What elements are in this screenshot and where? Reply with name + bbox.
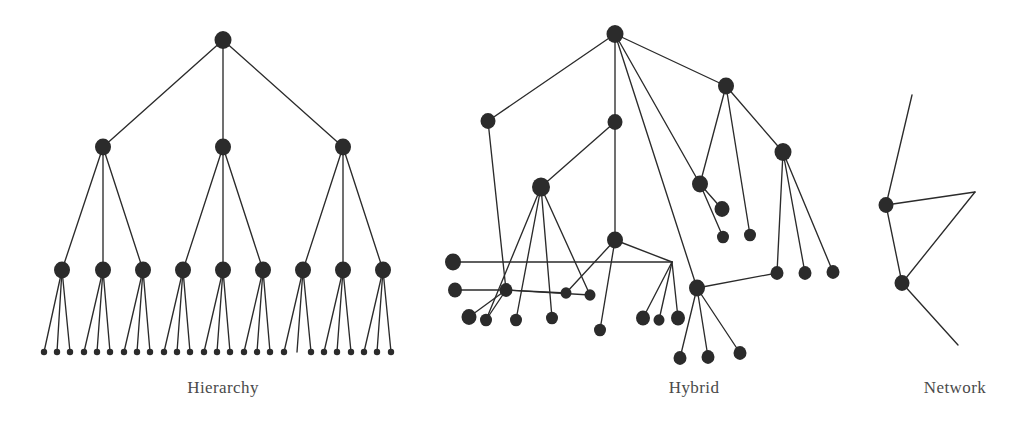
- caption-hybrid: Hybrid: [669, 378, 720, 398]
- graph-node: [608, 114, 623, 130]
- diagram-svg: [0, 0, 1031, 423]
- graph-edge: [672, 262, 678, 318]
- graph-node: [375, 262, 391, 279]
- graph-edge: [103, 147, 143, 270]
- graph-node: [161, 349, 167, 355]
- graph-edge: [343, 270, 351, 352]
- graph-node: [241, 349, 247, 355]
- graph-node: [94, 349, 100, 355]
- graph-node: [335, 262, 351, 279]
- graph-node: [308, 349, 314, 355]
- graph-node: [480, 314, 492, 327]
- graph-node: [174, 349, 180, 355]
- graph-node: [134, 349, 140, 355]
- graph-node: [718, 78, 734, 95]
- graph-edge: [697, 288, 740, 353]
- graph-edge: [343, 147, 383, 270]
- graph-node: [267, 349, 273, 355]
- graph-node: [734, 346, 747, 360]
- graph-edge: [223, 270, 230, 352]
- graph-edge: [615, 34, 700, 184]
- graph-node: [744, 229, 756, 242]
- graph-node: [54, 349, 60, 355]
- graph-edge: [183, 147, 223, 270]
- graph-node: [654, 314, 665, 326]
- graph-node: [255, 262, 271, 279]
- hybrid-graph: [445, 25, 840, 365]
- graph-edge: [488, 34, 615, 121]
- graph-edge: [486, 187, 541, 320]
- graph-edge: [383, 270, 391, 352]
- graph-edge: [886, 205, 902, 283]
- graph-node: [281, 349, 287, 355]
- graph-edge: [615, 34, 697, 288]
- graph-node: [827, 265, 840, 279]
- graph-node: [775, 143, 792, 161]
- edge-group: [453, 34, 833, 358]
- graph-node: [147, 349, 153, 355]
- graph-node: [321, 349, 327, 355]
- graph-edge: [700, 86, 726, 184]
- graph-edge: [223, 147, 263, 270]
- graph-node: [607, 25, 624, 43]
- graph-node: [175, 262, 191, 279]
- caption-hierarchy: Hierarchy: [187, 378, 259, 398]
- graph-node: [95, 262, 111, 279]
- graph-edge: [697, 288, 708, 357]
- graph-node: [692, 176, 708, 193]
- graph-node: [201, 349, 207, 355]
- graph-edge: [643, 262, 672, 318]
- graph-edge: [659, 262, 672, 320]
- graph-node: [481, 113, 496, 129]
- graph-node: [532, 177, 550, 196]
- graph-node: [67, 349, 73, 355]
- graph-node: [448, 283, 462, 298]
- graph-node: [334, 349, 340, 355]
- graph-node: [215, 262, 231, 279]
- graph-node: [594, 324, 606, 337]
- graph-edge: [183, 270, 190, 352]
- graph-node: [54, 262, 70, 279]
- graph-node: [107, 349, 113, 355]
- graph-edge: [615, 240, 672, 262]
- caption-network: Network: [924, 378, 986, 398]
- graph-node: [546, 312, 558, 325]
- graph-open-edge: [886, 95, 912, 205]
- graph-node: [361, 349, 367, 355]
- graph-node: [717, 231, 729, 244]
- graph-node: [374, 349, 380, 355]
- graph-node: [295, 262, 311, 279]
- graph-node: [95, 139, 111, 156]
- graph-edge: [516, 187, 541, 320]
- graph-node: [445, 254, 461, 271]
- graph-node: [510, 314, 522, 327]
- graph-edge: [143, 270, 150, 352]
- graph-node: [895, 275, 910, 291]
- graph-node: [214, 349, 220, 355]
- graph-node: [254, 349, 260, 355]
- graph-edge: [303, 270, 311, 352]
- graph-node: [771, 266, 784, 280]
- graph-open-edge: [886, 192, 975, 205]
- graph-edge: [541, 122, 615, 187]
- graph-edge: [615, 34, 726, 86]
- graph-edge: [103, 40, 223, 147]
- graph-node: [462, 309, 477, 325]
- graph-node: [671, 311, 685, 326]
- graph-edge: [726, 86, 750, 235]
- graph-node: [135, 262, 151, 279]
- graph-open-edge: [902, 192, 975, 283]
- graph-edge: [783, 152, 805, 273]
- graph-edge: [103, 270, 110, 352]
- graph-node: [607, 232, 623, 249]
- graph-node: [215, 139, 231, 156]
- graph-node: [674, 351, 687, 365]
- graph-node: [689, 280, 705, 297]
- graph-node: [799, 266, 812, 280]
- edge-group: [44, 40, 391, 352]
- graph-node: [561, 287, 572, 299]
- graph-edge: [303, 147, 343, 270]
- node-group: [41, 31, 394, 355]
- graph-node: [348, 349, 354, 355]
- graph-node: [388, 349, 394, 355]
